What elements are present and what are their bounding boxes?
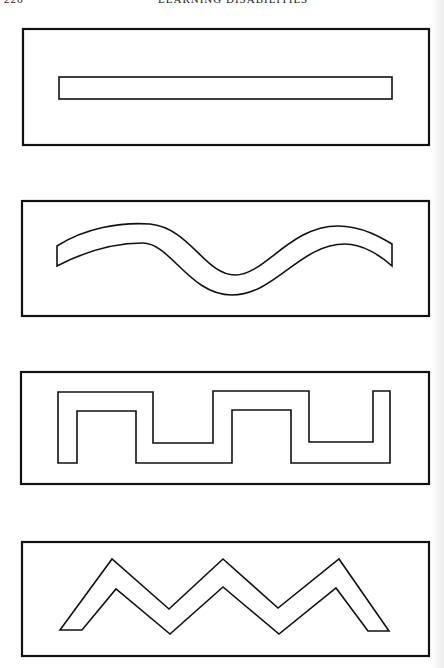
figure-frame [23, 29, 429, 145]
zigzag-shape [60, 559, 389, 634]
figure-square-wave-track [21, 372, 429, 484]
wave-shape [57, 224, 392, 295]
straight-bar-shape [59, 77, 392, 99]
figure-straight-line-track [23, 29, 429, 145]
figure-frame [21, 372, 429, 484]
figure-curved-wave-track [22, 201, 429, 316]
square-wave-shape [58, 391, 390, 463]
tracing-figures [0, 0, 444, 668]
figure-frame [22, 201, 429, 316]
figure-zigzag-track [22, 542, 429, 656]
